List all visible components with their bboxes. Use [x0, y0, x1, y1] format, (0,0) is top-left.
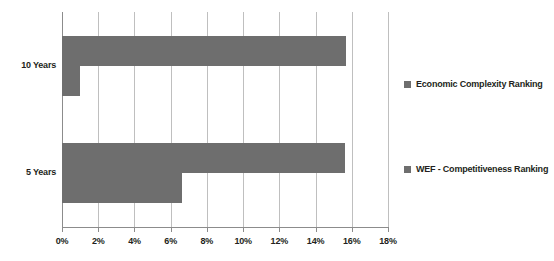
x-tick-label: 10%	[223, 236, 263, 246]
legend-swatch-icon	[404, 166, 411, 173]
bar-chart: 0%2%4%6%8%10%12%14%16%18% 10 Years5 Year…	[0, 0, 554, 261]
plot-area	[62, 12, 388, 227]
legend-entry[interactable]: WEF - Competitiveness Ranking	[404, 164, 548, 174]
chart-legend: Economic Complexity RankingWEF - Competi…	[404, 0, 554, 261]
legend-swatch-icon	[404, 81, 411, 88]
x-tick-mark	[316, 227, 317, 232]
x-tick-label: 6%	[151, 236, 191, 246]
legend-entry[interactable]: Economic Complexity Ranking	[404, 79, 543, 89]
y-axis-category-label: 10 Years	[0, 60, 56, 70]
x-tick-mark	[98, 227, 99, 232]
x-tick-mark	[243, 227, 244, 232]
x-tick-mark	[171, 227, 172, 232]
x-tick-label: 8%	[187, 236, 227, 246]
x-axis-line	[62, 227, 389, 228]
x-tick-mark	[207, 227, 208, 232]
x-tick-mark	[134, 227, 135, 232]
legend-label: WEF - Competitiveness Ranking	[416, 164, 548, 174]
legend-label: Economic Complexity Ranking	[416, 79, 543, 89]
bar	[62, 66, 80, 96]
x-tick-mark	[62, 227, 63, 232]
x-tick-label: 0%	[42, 236, 82, 246]
x-tick-mark	[352, 227, 353, 232]
x-tick-label: 12%	[259, 236, 299, 246]
x-tick-label: 4%	[114, 236, 154, 246]
bar	[62, 36, 346, 66]
x-tick-label: 14%	[296, 236, 336, 246]
gridline-18%	[388, 12, 389, 227]
x-tick-label: 2%	[78, 236, 118, 246]
x-tick-mark	[388, 227, 389, 232]
x-tick-label: 18%	[368, 236, 408, 246]
y-axis-category-label: 5 Years	[0, 167, 56, 177]
bar	[62, 173, 182, 203]
bar	[62, 143, 345, 173]
gridline-16%	[352, 12, 353, 227]
x-tick-mark	[279, 227, 280, 232]
x-tick-label: 16%	[332, 236, 372, 246]
